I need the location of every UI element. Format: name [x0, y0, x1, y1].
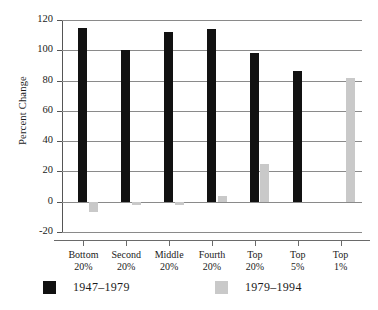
- legend-swatch-black: [43, 281, 56, 294]
- x-tick-mark: [126, 240, 127, 246]
- gridline: [62, 232, 362, 233]
- bar-series1-4: [250, 53, 259, 201]
- x-tick-mark: [169, 240, 170, 246]
- y-tick-mark: [57, 141, 62, 142]
- x-tick-mark: [212, 240, 213, 246]
- y-tick-label: 120: [23, 14, 53, 24]
- bar-series1-5: [293, 71, 302, 201]
- y-tick-label: -20: [23, 226, 53, 236]
- bar-series1-3: [207, 29, 216, 202]
- y-tick-mark: [57, 50, 62, 51]
- legend-label: 1979–1994: [245, 280, 302, 295]
- bar-series2-3: [218, 196, 227, 202]
- y-tick-mark: [57, 81, 62, 82]
- y-tick-label: 0: [23, 196, 53, 206]
- y-tick-label: 20: [23, 165, 53, 175]
- x-tick-label: Top1%: [311, 249, 371, 272]
- x-tick-mark: [255, 240, 256, 246]
- bar-series2-4: [260, 164, 269, 202]
- bar-series1-0: [78, 28, 87, 202]
- gridline: [62, 20, 362, 21]
- y-tick-label: 60: [23, 105, 53, 115]
- zero-line: [62, 202, 362, 203]
- y-tick-mark: [57, 171, 62, 172]
- y-tick-label: 80: [23, 75, 53, 85]
- y-tick-mark: [57, 20, 62, 21]
- bar-series2-1: [132, 202, 141, 205]
- y-tick-mark: [57, 232, 62, 233]
- legend-swatch-grey: [215, 281, 228, 294]
- y-tick-mark: [57, 111, 62, 112]
- bar-series1-1: [121, 50, 130, 201]
- bar-series2-6: [346, 78, 355, 202]
- bar-series2-0: [89, 202, 98, 213]
- chart-legend: 1947–19791979–1994: [0, 280, 378, 302]
- bar-series1-2: [164, 32, 173, 202]
- x-tick-mark: [298, 240, 299, 246]
- legend-label: 1947–1979: [73, 280, 130, 295]
- legend-item-0: 1947–1979: [43, 280, 130, 295]
- x-tick-mark: [83, 240, 84, 246]
- bar-chart-figure: Percent Change -20020406080100120 Bottom…: [0, 0, 378, 310]
- plot-area: [62, 20, 362, 232]
- bar-series2-2: [175, 202, 184, 205]
- y-tick-label: 100: [23, 44, 53, 54]
- y-tick-label: 40: [23, 135, 53, 145]
- x-tick-label-line: 1%: [311, 261, 371, 273]
- legend-item-1: 1979–1994: [215, 280, 302, 295]
- x-tick-label-line: Top: [311, 249, 371, 261]
- x-tick-mark: [341, 240, 342, 246]
